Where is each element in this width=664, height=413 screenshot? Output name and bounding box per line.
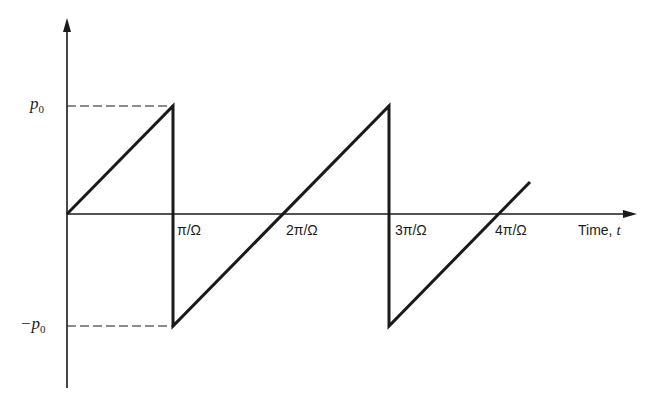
- tick-label-4pi: 4π/Ω: [495, 222, 527, 238]
- tick-label-pi: π/Ω: [177, 222, 201, 238]
- tick-label-2pi: 2π/Ω: [286, 222, 318, 238]
- neg-p0-label: −p0: [20, 314, 45, 335]
- tick-label-3pi: 3π/Ω: [395, 222, 427, 238]
- x-axis-arrow-icon: [623, 210, 637, 218]
- waveform-diagram: [0, 0, 664, 413]
- sawtooth-curve: [67, 106, 530, 326]
- x-axis-label: Time, t: [578, 222, 621, 239]
- y-axis-arrow-icon: [63, 18, 71, 32]
- p0-label: p0: [30, 94, 44, 115]
